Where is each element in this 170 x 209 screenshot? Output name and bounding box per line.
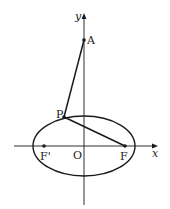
ellipse-diagram: y x O A P F F' [0,0,170,209]
label-A: A [86,34,96,47]
point-F-prime [42,144,46,148]
point-A [82,38,86,42]
label-F: F [120,150,128,163]
x-axis [14,144,158,149]
y-axis-label: y [74,10,82,23]
x-axis-label: x [152,147,159,160]
segment-PF [64,117,125,146]
origin-label: O [73,149,82,162]
label-P: P [56,108,64,121]
segment-AP [64,40,84,117]
y-axis-arrow-icon [82,13,87,19]
point-F [123,144,127,148]
label-F-prime: F' [40,150,51,163]
